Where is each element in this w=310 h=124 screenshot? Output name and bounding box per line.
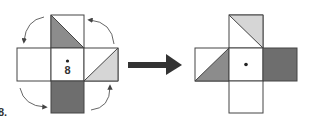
left-net-bottom-face [51,81,84,113]
problem-number: 8. [0,106,7,118]
left-net-left-face [17,48,51,81]
left-net-center-dot [66,59,69,62]
rotation-arrow-bottom-right [91,87,110,110]
right-net-bottom-face [229,81,263,113]
arrow-head [166,54,182,75]
arrow-shaft [128,62,168,68]
rotation-arrow-top-right [90,20,114,44]
cube-net-diagram: 8 8. [0,0,310,124]
right-net [195,15,297,113]
right-net-center-dot [244,63,248,67]
transform-arrow [128,54,182,75]
rotation-arrow-bottom-left [20,88,45,107]
right-net-right-face [263,48,297,81]
rotation-arrow-top-left [24,17,44,41]
left-net: 8 [17,15,118,113]
center-label: 8 [64,64,70,76]
